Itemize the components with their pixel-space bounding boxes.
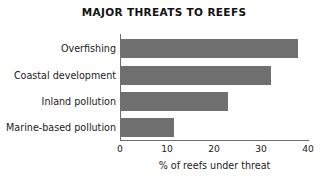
x-tick-label-10: 10 [152,143,182,154]
chart-title: MAJOR THREATS TO REEFS [0,6,328,18]
x-axis-line [120,140,309,141]
bar-row [120,66,308,85]
bar-coastal-development [120,66,271,85]
x-tick-label-40: 40 [293,143,323,154]
x-axis-title: % of reefs under threat [120,160,309,171]
x-tick-label-0: 0 [105,143,135,154]
bar-marine-based-pollution [120,118,174,137]
category-label-inland-pollution: Inland pollution [3,92,116,111]
bar-row [120,92,308,111]
category-label-marine-based-pollution: Marine-based pollution [3,118,116,137]
category-label-coastal-development: Coastal development [3,66,116,85]
bar-inland-pollution [120,92,228,111]
bar-row [120,39,308,58]
bar-overfishing [120,39,298,58]
x-tick-label-20: 20 [199,143,229,154]
x-tick-label-30: 30 [246,143,276,154]
category-label-overfishing: Overfishing [3,39,116,58]
bar-chart-figure: MAJOR THREATS TO REEFS Overfishing Coast… [0,0,328,182]
bar-row [120,118,308,137]
